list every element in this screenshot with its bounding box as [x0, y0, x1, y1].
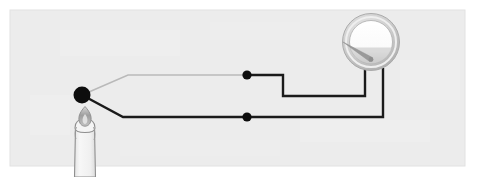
analog-meter[interactable]	[343, 14, 400, 71]
meter-needle-pivot	[369, 57, 374, 62]
thermocouple-diagram	[0, 0, 478, 177]
hot-junction-dot	[74, 87, 91, 104]
figure-root: Thermocouple circuit with candle flame a…	[0, 0, 478, 177]
contact-lower-dot	[242, 112, 251, 121]
candle-body	[75, 128, 96, 177]
contact-upper-dot	[242, 70, 251, 79]
